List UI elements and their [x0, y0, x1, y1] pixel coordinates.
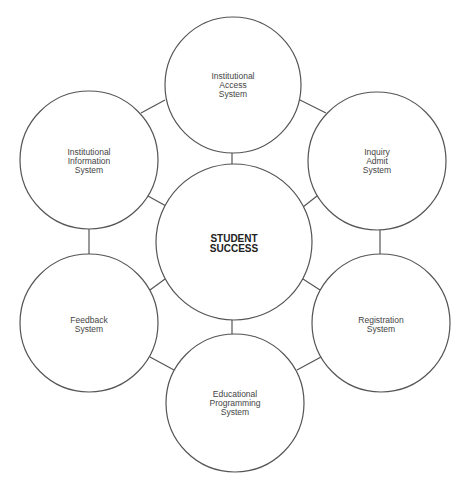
- node-registration: Registration System: [312, 254, 450, 392]
- spoke-registration: [303, 279, 320, 290]
- node-label-line: System: [367, 324, 395, 334]
- spoke-information: [148, 196, 166, 206]
- node-label-line: System: [75, 324, 103, 334]
- link-access-inquiry: [300, 100, 326, 113]
- node-label-line: System: [219, 89, 247, 99]
- spoke-inquiry: [303, 196, 317, 207]
- node-label-line: System: [75, 165, 103, 175]
- center-label-line: SUCCESS: [210, 243, 259, 254]
- link-access-information: [141, 100, 165, 113]
- node-label-line: System: [221, 407, 249, 417]
- link-registration-educational: [297, 357, 321, 370]
- node-label-line: System: [363, 165, 391, 175]
- student-success-diagram: Institutional Access System Institutiona…: [0, 0, 467, 487]
- link-educational-feedback: [150, 357, 174, 370]
- node-institutional-access: Institutional Access System: [165, 17, 301, 153]
- node-feedback: Feedback System: [20, 254, 158, 392]
- node-educational-programming: Educational Programming System: [166, 334, 304, 472]
- node-student-success: STUDENT SUCCESS: [156, 164, 312, 320]
- node-inquiry-admit: Inquiry Admit System: [308, 92, 446, 230]
- spoke-feedback: [150, 279, 165, 290]
- node-institutional-information: Institutional Information System: [20, 91, 158, 229]
